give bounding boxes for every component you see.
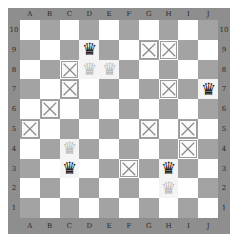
square-d9[interactable]: ♛	[79, 40, 99, 60]
square-f8[interactable]	[119, 60, 139, 80]
square-g1[interactable]	[139, 198, 159, 218]
square-i1[interactable]	[178, 198, 198, 218]
black-queen-icon[interactable]: ♛	[198, 79, 218, 99]
square-f9[interactable]	[119, 40, 139, 60]
square-d4[interactable]	[79, 139, 99, 159]
square-j4[interactable]	[198, 139, 218, 159]
square-g4[interactable]	[139, 139, 159, 159]
square-j5[interactable]	[198, 119, 218, 139]
square-d5[interactable]	[79, 119, 99, 139]
square-b10[interactable]	[40, 20, 60, 40]
square-g10[interactable]	[139, 20, 159, 40]
square-e10[interactable]	[99, 20, 119, 40]
square-e8[interactable]: ♛	[99, 60, 119, 80]
square-h1[interactable]	[159, 198, 179, 218]
square-d1[interactable]	[79, 198, 99, 218]
square-b3[interactable]	[40, 159, 60, 179]
square-c1[interactable]	[60, 198, 80, 218]
square-h8[interactable]	[159, 60, 179, 80]
square-a1[interactable]	[20, 198, 40, 218]
square-g3[interactable]	[139, 159, 159, 179]
square-h5[interactable]	[159, 119, 179, 139]
square-j1[interactable]	[198, 198, 218, 218]
square-j10[interactable]	[198, 20, 218, 40]
square-g5[interactable]	[139, 119, 159, 139]
square-j3[interactable]	[198, 159, 218, 179]
square-a5[interactable]	[20, 119, 40, 139]
square-g8[interactable]	[139, 60, 159, 80]
square-i7[interactable]	[178, 79, 198, 99]
square-i8[interactable]	[178, 60, 198, 80]
square-a6[interactable]	[20, 99, 40, 119]
square-c10[interactable]	[60, 20, 80, 40]
square-b6[interactable]	[40, 99, 60, 119]
square-d2[interactable]	[79, 178, 99, 198]
square-d6[interactable]	[79, 99, 99, 119]
white-queen-icon[interactable]: ♛	[79, 60, 99, 80]
square-j9[interactable]	[198, 40, 218, 60]
square-c3[interactable]: ♛	[60, 159, 80, 179]
square-j7[interactable]: ♛	[198, 79, 218, 99]
square-c2[interactable]	[60, 178, 80, 198]
square-f1[interactable]	[119, 198, 139, 218]
square-j2[interactable]	[198, 178, 218, 198]
square-d7[interactable]	[79, 79, 99, 99]
square-h10[interactable]	[159, 20, 179, 40]
square-b9[interactable]	[40, 40, 60, 60]
square-g7[interactable]	[139, 79, 159, 99]
black-queen-icon[interactable]: ♛	[159, 159, 179, 179]
square-b5[interactable]	[40, 119, 60, 139]
square-i4[interactable]	[178, 139, 198, 159]
square-g9[interactable]	[139, 40, 159, 60]
square-h4[interactable]	[159, 139, 179, 159]
square-e2[interactable]	[99, 178, 119, 198]
square-e1[interactable]	[99, 198, 119, 218]
square-f6[interactable]	[119, 99, 139, 119]
square-f3[interactable]	[119, 159, 139, 179]
square-i5[interactable]	[178, 119, 198, 139]
square-b8[interactable]	[40, 60, 60, 80]
square-b4[interactable]	[40, 139, 60, 159]
square-h7[interactable]	[159, 79, 179, 99]
square-e3[interactable]	[99, 159, 119, 179]
square-d10[interactable]	[79, 20, 99, 40]
white-queen-icon[interactable]: ♛	[159, 178, 179, 198]
square-a10[interactable]	[20, 20, 40, 40]
square-b1[interactable]	[40, 198, 60, 218]
square-e5[interactable]	[99, 119, 119, 139]
square-c9[interactable]	[60, 40, 80, 60]
square-a4[interactable]	[20, 139, 40, 159]
square-f2[interactable]	[119, 178, 139, 198]
square-f4[interactable]	[119, 139, 139, 159]
square-a8[interactable]	[20, 60, 40, 80]
square-e6[interactable]	[99, 99, 119, 119]
square-h3[interactable]: ♛	[159, 159, 179, 179]
square-i10[interactable]	[178, 20, 198, 40]
square-i2[interactable]	[178, 178, 198, 198]
square-i6[interactable]	[178, 99, 198, 119]
square-a2[interactable]	[20, 178, 40, 198]
square-d3[interactable]	[79, 159, 99, 179]
square-a7[interactable]	[20, 79, 40, 99]
square-c8[interactable]	[60, 60, 80, 80]
square-j6[interactable]	[198, 99, 218, 119]
square-e9[interactable]	[99, 40, 119, 60]
square-h6[interactable]	[159, 99, 179, 119]
square-h9[interactable]	[159, 40, 179, 60]
square-h2[interactable]: ♛	[159, 178, 179, 198]
black-queen-icon[interactable]: ♛	[79, 40, 99, 60]
square-e4[interactable]	[99, 139, 119, 159]
square-b2[interactable]	[40, 178, 60, 198]
square-e7[interactable]	[99, 79, 119, 99]
square-a3[interactable]	[20, 159, 40, 179]
square-j8[interactable]	[198, 60, 218, 80]
square-g6[interactable]	[139, 99, 159, 119]
square-c4[interactable]: ♛	[60, 139, 80, 159]
square-f7[interactable]	[119, 79, 139, 99]
white-queen-icon[interactable]: ♛	[60, 139, 80, 159]
square-c5[interactable]	[60, 119, 80, 139]
square-f10[interactable]	[119, 20, 139, 40]
square-d8[interactable]: ♛	[79, 60, 99, 80]
square-a9[interactable]	[20, 40, 40, 60]
square-i9[interactable]	[178, 40, 198, 60]
